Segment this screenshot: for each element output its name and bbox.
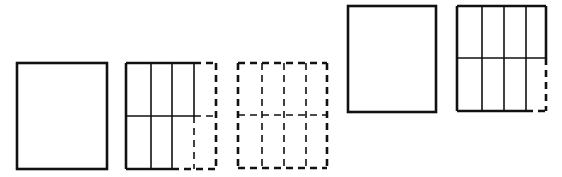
outline-rect [348, 6, 436, 112]
panel-3 [238, 63, 327, 168]
panel-5 [457, 6, 546, 111]
panel-1 [17, 63, 107, 169]
diagram-canvas [0, 0, 562, 177]
panel-2 [126, 63, 216, 169]
diagram-svg [0, 0, 562, 177]
outline-rect [17, 63, 107, 169]
panel-4 [348, 6, 436, 112]
